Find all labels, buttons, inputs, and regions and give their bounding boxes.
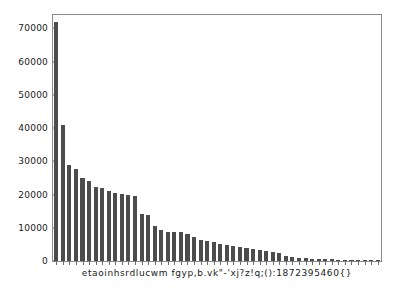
x-axis-tick-mark	[181, 261, 182, 265]
bar	[251, 249, 255, 261]
x-axis-tick-mark	[286, 261, 287, 265]
bar	[277, 253, 281, 261]
bar	[264, 251, 268, 261]
x-axis-tick-mark	[207, 261, 208, 265]
x-axis-tick-mark	[299, 261, 300, 265]
bar	[212, 242, 216, 261]
bar	[225, 245, 229, 261]
x-axis-tick-mark	[365, 261, 366, 265]
x-axis-tick-mark	[312, 261, 313, 265]
x-axis-tick-mark	[319, 261, 320, 265]
x-axis-tick-mark	[220, 261, 221, 265]
x-axis-tick-mark	[168, 261, 169, 265]
bar	[61, 125, 65, 261]
bar	[100, 188, 104, 261]
x-axis-tick-mark	[142, 261, 143, 265]
x-axis-tick-mark	[260, 261, 261, 265]
bar	[146, 215, 150, 261]
bar	[205, 241, 209, 261]
x-axis-tick-mark	[161, 261, 162, 265]
x-axis-tick-mark	[187, 261, 188, 265]
x-axis-tick-mark	[174, 261, 175, 265]
bar	[153, 226, 157, 261]
x-axis-tick-mark	[102, 261, 103, 265]
x-axis-tick-mark	[128, 261, 129, 265]
x-axis-tick-mark	[338, 261, 339, 265]
x-axis-tick-mark	[306, 261, 307, 265]
bar	[54, 22, 58, 261]
bar	[179, 232, 183, 261]
y-axis-tick-label: 60000	[18, 57, 53, 67]
x-axis-tick-mark	[266, 261, 267, 265]
bar	[258, 250, 262, 261]
x-axis-tick-mark	[233, 261, 234, 265]
x-axis-tick-mark	[214, 261, 215, 265]
bar	[120, 194, 124, 261]
x-axis-tick-mark	[332, 261, 333, 265]
bar	[107, 191, 111, 261]
character-frequency-bar-chart: 010000200003000040000500006000070000 eta…	[0, 0, 399, 303]
bar	[94, 187, 98, 261]
x-axis-tick-mark	[240, 261, 241, 265]
x-axis-tick-mark	[96, 261, 97, 265]
x-axis-tick-mark	[358, 261, 359, 265]
x-axis-tick-mark	[76, 261, 77, 265]
x-axis-tick-mark	[89, 261, 90, 265]
x-axis-tick-mark	[109, 261, 110, 265]
bar	[244, 248, 248, 261]
x-axis-tick-mark	[351, 261, 352, 265]
y-axis-tick-label: 40000	[18, 123, 53, 133]
bar	[67, 165, 71, 261]
x-axis-tick-mark	[201, 261, 202, 265]
x-axis-tick-mark	[378, 261, 379, 265]
x-axis-tick-mark	[194, 261, 195, 265]
x-axis-tick-mark	[292, 261, 293, 265]
x-axis-tick-mark	[325, 261, 326, 265]
bar	[133, 196, 137, 261]
y-axis-tick-label: 0	[42, 256, 53, 266]
bar	[185, 234, 189, 261]
bar	[231, 246, 235, 261]
bar	[140, 214, 144, 261]
x-axis-tick-mark	[155, 261, 156, 265]
x-axis-tick-mark	[115, 261, 116, 265]
bar	[159, 230, 163, 261]
y-axis-tick-label: 10000	[18, 223, 53, 233]
bar	[199, 240, 203, 261]
x-axis-tick-mark	[247, 261, 248, 265]
x-axis-tick-labels: etaoinhsrdlucwm fgyp,b.vk"-'xj?z!q;():18…	[52, 268, 382, 282]
x-axis-tick-mark	[63, 261, 64, 265]
bar	[192, 237, 196, 261]
y-axis-tick-label: 20000	[18, 190, 53, 200]
x-axis-tick-mark	[371, 261, 372, 265]
y-axis-tick-label: 70000	[18, 23, 53, 33]
x-axis-tick-mark	[148, 261, 149, 265]
x-axis-tick-mark	[122, 261, 123, 265]
y-axis-tick-label: 30000	[18, 156, 53, 166]
bar	[126, 195, 130, 261]
bar	[172, 232, 176, 261]
bar	[87, 181, 91, 261]
bar-series	[53, 15, 381, 261]
bar	[271, 252, 275, 261]
x-axis-tick-mark	[56, 261, 57, 265]
plot-area: 010000200003000040000500006000070000	[52, 14, 382, 262]
bar	[166, 232, 170, 261]
x-axis-tick-mark	[345, 261, 346, 265]
x-axis-tick-mark	[279, 261, 280, 265]
x-axis-tick-mark	[69, 261, 70, 265]
y-axis-tick-label: 50000	[18, 90, 53, 100]
x-axis-tick-mark	[83, 261, 84, 265]
bar	[74, 169, 78, 261]
x-axis-tick-mark	[227, 261, 228, 265]
x-axis-tick-mark	[253, 261, 254, 265]
bar	[80, 178, 84, 261]
x-axis-tick-mark	[273, 261, 274, 265]
x-axis-tick-mark	[135, 261, 136, 265]
bar	[238, 247, 242, 261]
bar	[113, 193, 117, 261]
bar	[218, 244, 222, 261]
